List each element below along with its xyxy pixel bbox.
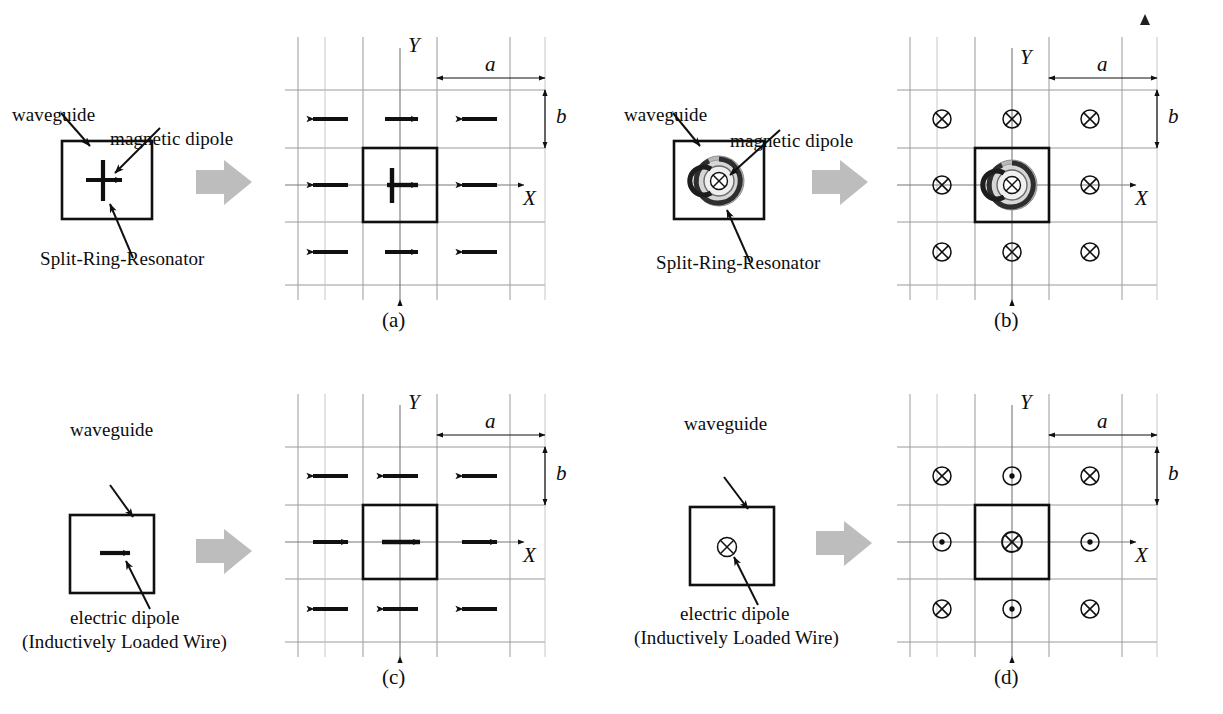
srr-edge-view-center xyxy=(387,168,418,203)
dimension-label-a: a xyxy=(1097,52,1108,77)
label-magnetic-dipole: magnetic dipole xyxy=(730,130,853,152)
label-electric-dipole-sub: (Inductively Loaded Wire) xyxy=(634,627,839,649)
axis-label-x: X xyxy=(523,186,536,211)
schematic-srr-face-view xyxy=(690,156,744,206)
panel-a: waveguide magnetic dipole Split-Ring-Res… xyxy=(0,0,611,357)
axis-label-y: Y xyxy=(1020,390,1032,415)
dimension-label-b: b xyxy=(1168,104,1179,129)
dimension-label-a: a xyxy=(485,52,496,77)
label-waveguide: waveguide xyxy=(684,413,767,435)
lattice-grid-minor xyxy=(325,394,545,657)
leader-lines xyxy=(110,485,150,609)
schematic-waveguide-box xyxy=(690,507,774,585)
symbol-into-page xyxy=(933,467,951,485)
label-split-ring-resonator: Split-Ring-Resonator xyxy=(40,248,205,270)
axis-label-y: Y xyxy=(408,390,420,415)
symbol-into-page xyxy=(1081,467,1099,485)
symbol-into-page xyxy=(933,243,951,261)
axis-label-y: Y xyxy=(1020,45,1032,70)
panel-b-graphics xyxy=(612,0,1223,357)
axis-label-x: X xyxy=(523,543,536,568)
dimension-label-b: b xyxy=(1168,461,1179,486)
panel-d: waveguide electric dipole (Inductively L… xyxy=(612,357,1223,714)
dimension-label-b: b xyxy=(556,461,567,486)
panel-tag-a: (a) xyxy=(382,308,405,333)
leader-waveguide xyxy=(110,485,133,517)
symbol-into-page xyxy=(933,600,951,618)
transition-block-arrow xyxy=(196,160,252,205)
dimension-label-b: b xyxy=(556,104,567,129)
label-waveguide: waveguide xyxy=(12,104,95,126)
axis-label-x: X xyxy=(1135,186,1148,211)
figure-root: waveguide magnetic dipole Split-Ring-Res… xyxy=(0,0,1223,714)
symbol-into-page xyxy=(1081,600,1099,618)
leader-electric-dipole xyxy=(734,557,758,605)
panel-c: waveguide electric dipole (Inductively L… xyxy=(0,357,611,714)
panel-tag-b: (b) xyxy=(994,308,1019,333)
panel-tag-d: (d) xyxy=(994,665,1019,690)
panel-tag-c: (c) xyxy=(382,665,405,690)
label-magnetic-dipole: magnetic dipole xyxy=(110,128,233,150)
transition-block-arrow xyxy=(196,529,252,574)
lattice-grid xyxy=(897,394,1157,657)
panel-d-graphics xyxy=(612,357,1223,714)
transition-block-arrow xyxy=(816,521,872,566)
lattice-grid-minor xyxy=(937,394,1157,657)
panel-c-graphics xyxy=(0,357,611,714)
panel-a-graphics xyxy=(0,0,611,357)
lattice-grid xyxy=(285,394,545,657)
leader-waveguide xyxy=(724,477,748,509)
schematic-wire-into-page xyxy=(718,538,737,557)
dimension-label-a: a xyxy=(1097,409,1108,434)
schematic-srr-edge-view xyxy=(86,160,122,201)
transition-block-arrow xyxy=(812,160,868,205)
label-waveguide: waveguide xyxy=(70,419,153,441)
srr-face-view-center xyxy=(983,160,1037,210)
label-electric-dipole-sub: (Inductively Loaded Wire) xyxy=(22,631,227,653)
label-electric-dipole: electric dipole xyxy=(680,603,790,625)
axis-label-y: Y xyxy=(408,33,420,58)
leader-electric-dipole xyxy=(126,561,150,609)
panel-b: waveguide magnetic dipole Split-Ring-Res… xyxy=(612,0,1223,357)
lattice-grid-minor xyxy=(325,37,545,300)
symbol-into-page xyxy=(933,110,951,128)
label-electric-dipole: electric dipole xyxy=(70,607,180,629)
figure-caption-partial xyxy=(8,700,1108,714)
lattice-grid-minor xyxy=(937,37,1157,300)
symbol-into-page xyxy=(1081,243,1099,261)
label-waveguide: waveguide xyxy=(624,104,707,126)
symbol-into-page xyxy=(1081,110,1099,128)
stray-mark xyxy=(1140,14,1150,25)
lattice-grid xyxy=(285,37,545,300)
dimension-label-a: a xyxy=(485,409,496,434)
label-split-ring-resonator: Split-Ring-Resonator xyxy=(656,252,821,274)
axis-label-x: X xyxy=(1135,543,1148,568)
